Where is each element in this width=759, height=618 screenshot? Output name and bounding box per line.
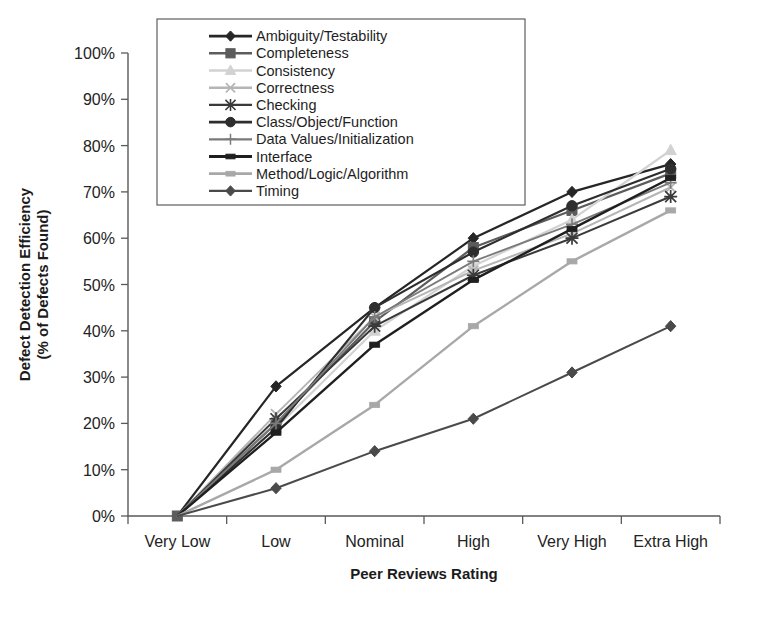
series-line <box>177 326 670 516</box>
bar-marker <box>468 324 478 329</box>
chart-legend: Ambiguity/TestabilityCompletenessConsist… <box>157 19 525 205</box>
diamond-marker <box>369 446 379 457</box>
asterisk-marker <box>664 190 677 203</box>
legend-label: Ambiguity/Testability <box>256 28 388 44</box>
series-line <box>177 169 670 516</box>
y-axis-title-line1: Defect Detection Efficiency <box>16 187 33 381</box>
series-class-object-function <box>177 164 676 516</box>
y-tick-label: 30% <box>83 369 115 386</box>
bar-marker <box>666 175 676 180</box>
diamond-marker <box>468 413 478 424</box>
circle-marker <box>567 201 577 211</box>
asterisk-marker <box>225 99 237 111</box>
legend-label: Interface <box>256 149 312 165</box>
legend-label: Method/Logic/Algorithm <box>256 166 408 182</box>
bar-marker <box>666 208 676 213</box>
y-axis-title-line2: (% of Defects Found) <box>34 210 51 360</box>
series-line <box>177 183 670 516</box>
legend-label: Correctness <box>256 80 334 96</box>
diamond-marker <box>665 321 675 332</box>
x-category-label: Very High <box>537 533 606 550</box>
y-tick-label: 60% <box>83 230 115 247</box>
y-tick-label: 50% <box>83 277 115 294</box>
series-line <box>177 173 670 516</box>
y-axis-title: Defect Detection Efficiency(% of Defects… <box>16 187 51 381</box>
series-line <box>177 210 670 516</box>
circle-marker <box>226 117 236 127</box>
series-line <box>177 197 670 516</box>
bar-marker <box>226 154 235 159</box>
diamond-marker <box>567 367 577 378</box>
bar-marker <box>567 259 577 264</box>
y-tick-label: 10% <box>83 462 115 479</box>
x-category-label: Extra High <box>633 533 708 550</box>
asterisk-marker <box>566 232 579 245</box>
diamond-marker <box>271 483 281 494</box>
legend-label: Class/Object/Function <box>256 114 398 130</box>
y-axis-ticks: 0%10%20%30%40%50%60%70%80%90%100% <box>74 45 128 525</box>
x-category-label: Nominal <box>345 533 404 550</box>
x-category-label: Very Low <box>144 533 210 550</box>
legend-label: Data Values/Initialization <box>256 131 414 147</box>
square-marker <box>226 49 235 58</box>
bar-marker <box>226 171 235 176</box>
series-checking <box>177 190 677 516</box>
line-chart: Defect Detection Efficiency(% of Defects… <box>0 0 759 618</box>
diamond-marker <box>567 186 577 197</box>
legend-label: Consistency <box>256 63 336 79</box>
series-data-values-initialization <box>177 177 676 516</box>
legend-label: Completeness <box>256 45 349 61</box>
circle-marker <box>665 164 675 174</box>
y-tick-label: 100% <box>74 45 115 62</box>
y-tick-label: 90% <box>83 91 115 108</box>
triangle-marker <box>665 144 676 154</box>
chart-container: Defect Detection Efficiency(% of Defects… <box>0 0 759 618</box>
series-line <box>177 187 670 516</box>
series-method-logic-algorithm <box>177 208 675 516</box>
x-category-label: High <box>457 533 490 550</box>
bar-marker <box>370 342 380 347</box>
y-tick-label: 40% <box>83 323 115 340</box>
x-axis-title-text: Peer Reviews Rating <box>350 565 498 582</box>
y-tick-label: 20% <box>83 415 115 432</box>
series-correctness <box>177 182 675 516</box>
bar-marker <box>271 467 281 472</box>
x-category-label: Low <box>261 533 291 550</box>
bar-marker <box>567 226 577 231</box>
bar-marker <box>370 402 380 407</box>
bar-marker <box>271 430 281 435</box>
legend-label: Timing <box>256 183 299 199</box>
y-tick-label: 0% <box>92 508 115 525</box>
x-axis-ticks: Very LowLowNominalHighVery HighExtra Hig… <box>128 516 720 550</box>
x-axis-title: Peer Reviews Rating <box>350 565 498 582</box>
y-tick-label: 80% <box>83 138 115 155</box>
y-tick-label: 70% <box>83 184 115 201</box>
legend-label: Checking <box>256 97 316 113</box>
bar-marker <box>468 277 478 282</box>
